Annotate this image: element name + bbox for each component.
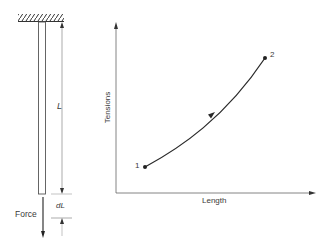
x-axis-label: Length xyxy=(202,196,226,205)
point-1-label: 1 xyxy=(135,161,139,170)
force-arrow-icon xyxy=(41,197,45,238)
state-point-2 xyxy=(263,56,267,60)
length-label: L xyxy=(57,101,62,111)
elongation-label: dL xyxy=(56,201,65,210)
state-point-1 xyxy=(143,165,147,169)
ceiling-support xyxy=(18,14,64,22)
point-2-label: 2 xyxy=(270,50,274,59)
chart-axes xyxy=(114,22,316,195)
diagram-canvas xyxy=(0,0,324,245)
y-axis-label: Tensions xyxy=(103,88,112,128)
elongation-dimension xyxy=(51,218,72,236)
rod xyxy=(39,22,46,194)
force-label: Force xyxy=(15,209,37,219)
process-curve xyxy=(145,58,265,167)
